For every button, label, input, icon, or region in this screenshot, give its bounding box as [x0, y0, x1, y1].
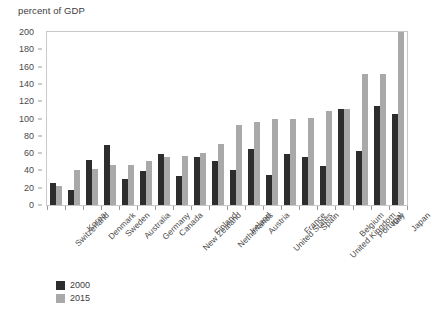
bar-2000 — [122, 179, 128, 205]
bar-group — [299, 32, 317, 205]
y-tick-mark — [38, 118, 42, 119]
bar-group — [209, 32, 227, 205]
y-tick-label: 140 — [19, 79, 34, 89]
legend-label: 2015 — [70, 293, 90, 303]
y-tick-label: 100 — [19, 114, 34, 124]
y-tick-mark — [38, 66, 42, 67]
y-tick-mark — [38, 135, 42, 136]
bar-2015 — [182, 156, 188, 205]
plot-area — [46, 31, 408, 206]
bar-2000 — [302, 157, 308, 205]
bar-2015 — [164, 157, 170, 205]
bar-group — [119, 32, 137, 205]
bar-2015 — [110, 165, 116, 205]
bar-2015 — [380, 74, 386, 205]
x-axis-labels: SwitzerlandKoreaDenmarkSwedenAustraliaGe… — [47, 210, 417, 272]
y-tick-mark — [38, 170, 42, 171]
y-tick-mark — [38, 101, 42, 102]
bar-group — [191, 32, 209, 205]
bar-2015 — [344, 109, 350, 205]
bar-2015 — [362, 74, 368, 205]
y-tick-label: 40 — [24, 165, 34, 175]
bar-group — [227, 32, 245, 205]
bar-group — [47, 32, 65, 205]
legend-swatch-icon — [56, 294, 65, 303]
legend-item[interactable]: 2000 — [56, 279, 90, 291]
bar-2015 — [128, 165, 134, 205]
bar-2015 — [74, 170, 80, 205]
bar-group — [245, 32, 263, 205]
y-tick-mark — [38, 187, 42, 188]
y-tick-label: 60 — [24, 148, 34, 158]
bar-group — [137, 32, 155, 205]
bar-2000 — [230, 170, 236, 205]
bar-2000 — [284, 154, 290, 205]
x-tick-label: Japan — [409, 210, 432, 233]
legend-item[interactable]: 2015 — [56, 292, 90, 304]
bar-2015 — [92, 169, 98, 205]
bar-2015 — [308, 118, 314, 205]
y-tick-label: 180 — [19, 44, 34, 54]
bar-2015 — [56, 186, 62, 205]
bar-2000 — [176, 176, 182, 205]
bar-2015 — [398, 32, 404, 205]
bar-2000 — [194, 157, 200, 205]
y-tick-mark — [38, 83, 42, 84]
bar-group — [389, 32, 407, 205]
bar-group — [173, 32, 191, 205]
chart-axis-title: percent of GDP — [18, 5, 85, 16]
bar-group — [83, 32, 101, 205]
bar-2000 — [158, 154, 164, 205]
bar-group — [155, 32, 173, 205]
bar-2000 — [68, 190, 74, 205]
y-tick-label: 120 — [19, 96, 34, 106]
y-tick-label: 80 — [24, 131, 34, 141]
y-tick-mark — [38, 153, 42, 154]
bar-2015 — [290, 119, 296, 206]
legend-label: 2000 — [70, 280, 90, 290]
bar-group — [263, 32, 281, 205]
bar-group — [353, 32, 371, 205]
bar-2000 — [356, 151, 362, 205]
bar-2015 — [326, 111, 332, 205]
y-tick-label: 0 — [29, 200, 34, 210]
bar-group — [65, 32, 83, 205]
bar-group — [317, 32, 335, 205]
bar-2000 — [86, 160, 92, 205]
bar-2000 — [50, 183, 56, 205]
bar-group — [281, 32, 299, 205]
bar-2015 — [254, 122, 260, 205]
y-tick-label: 160 — [19, 62, 34, 72]
bar-2000 — [212, 161, 218, 205]
bar-2015 — [272, 119, 278, 206]
bar-group — [101, 32, 119, 205]
y-tick-mark — [38, 49, 42, 50]
bar-2000 — [320, 166, 326, 205]
y-tick-label: 20 — [24, 183, 34, 193]
y-axis: 020406080100120140160180200 — [0, 31, 42, 206]
bars-layer — [47, 32, 407, 205]
bar-2015 — [146, 161, 152, 205]
y-tick-label: 200 — [19, 27, 34, 37]
chart-legend: 20002015 — [56, 279, 90, 305]
y-tick-mark — [38, 205, 42, 206]
bar-2000 — [104, 145, 110, 205]
bar-2000 — [392, 114, 398, 205]
bar-2015 — [236, 125, 242, 205]
bar-2000 — [248, 149, 254, 205]
bar-group — [335, 32, 353, 205]
bar-2000 — [266, 175, 272, 205]
bar-2015 — [200, 153, 206, 205]
bar-2000 — [338, 109, 344, 205]
bar-2000 — [140, 171, 146, 205]
bar-2015 — [218, 144, 224, 205]
bar-group — [371, 32, 389, 205]
legend-swatch-icon — [56, 281, 65, 290]
bar-2000 — [374, 106, 380, 205]
